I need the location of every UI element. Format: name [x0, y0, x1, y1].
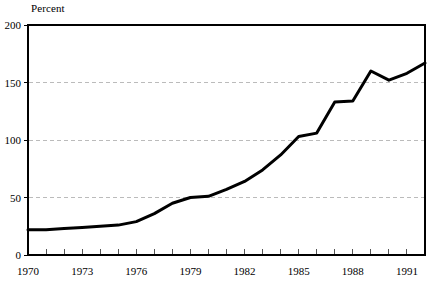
chart-container: Percent 050100150200 1970197319761979198… [0, 0, 438, 285]
svg-text:1970: 1970 [17, 265, 40, 277]
svg-text:1976: 1976 [125, 265, 148, 277]
svg-text:50: 50 [10, 192, 22, 204]
svg-text:100: 100 [5, 134, 22, 146]
svg-text:1982: 1982 [234, 265, 256, 277]
svg-text:1979: 1979 [179, 265, 202, 277]
x-axis-tick-labels: 19701973197619791982198519881991 [17, 265, 418, 277]
svg-text:1973: 1973 [71, 265, 94, 277]
svg-text:150: 150 [5, 77, 22, 89]
svg-text:200: 200 [5, 19, 22, 31]
y-axis-tick-labels: 050100150200 [5, 19, 22, 261]
svg-text:0: 0 [16, 249, 22, 261]
svg-text:1991: 1991 [396, 265, 418, 277]
data-line-series [28, 63, 425, 230]
grid-lines [29, 83, 424, 198]
x-axis-ticks [46, 249, 407, 255]
svg-text:1988: 1988 [342, 265, 365, 277]
line-chart-plot: 050100150200 197019731976197919821985198… [0, 0, 438, 285]
svg-text:1985: 1985 [288, 265, 311, 277]
